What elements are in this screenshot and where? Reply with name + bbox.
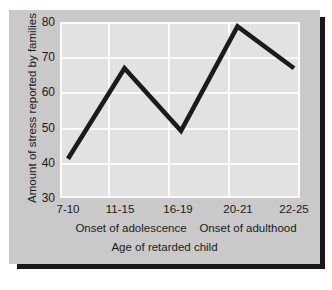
x-axis-title: Age of retarded child <box>9 241 320 253</box>
figure-root: Amount of stress reported by families 80… <box>0 0 332 290</box>
y-tick-label: 50 <box>21 122 55 134</box>
x-tick-label: 7-10 <box>38 202 98 216</box>
plot-area <box>60 22 300 198</box>
y-axis-ticks: 80 70 60 50 40 30 <box>17 22 55 198</box>
x-tick-label: 22-25 <box>264 202 324 216</box>
annotation-onset-of-adulthood: Onset of adulthood <box>173 221 323 235</box>
x-tick-label: 20-21 <box>208 202 268 216</box>
y-tick-label: 70 <box>21 51 55 63</box>
x-axis-ticks: 7-10 11-15 16-19 20-21 22-25 <box>60 202 300 218</box>
y-tick-label: 40 <box>21 157 55 169</box>
series-line <box>60 22 300 198</box>
y-tick-label: 80 <box>21 16 55 28</box>
x-tick-label: 16-19 <box>148 202 208 216</box>
y-tick-label: 60 <box>21 86 55 98</box>
chart-card: Amount of stress reported by families 80… <box>9 10 320 264</box>
x-tick-label: 11-15 <box>90 202 150 216</box>
